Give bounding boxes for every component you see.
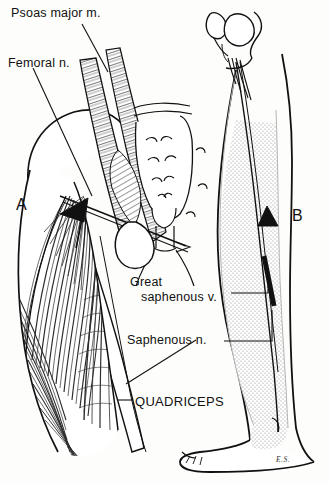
- panel-letter-a: A: [16, 196, 27, 214]
- label-great-saphenous-vein-line1: Great: [130, 275, 217, 290]
- label-great-saphenous-vein-line2: saphenous v.: [130, 290, 217, 305]
- panel-letter-b: B: [292, 207, 303, 225]
- label-psoas-major: Psoas major m.: [11, 6, 101, 20]
- label-saphenous-nerve: Saphenous n.: [127, 333, 207, 347]
- label-femoral-nerve: Femoral n.: [8, 56, 70, 70]
- artist-signature: E.S.: [276, 455, 290, 464]
- anatomy-drawing: [0, 0, 330, 483]
- label-quadriceps: QUADRICEPS: [135, 394, 224, 409]
- label-great-saphenous-vein: Great saphenous v.: [130, 275, 217, 305]
- anatomical-figure: Psoas major m. Femoral n. Great saphenou…: [0, 0, 330, 483]
